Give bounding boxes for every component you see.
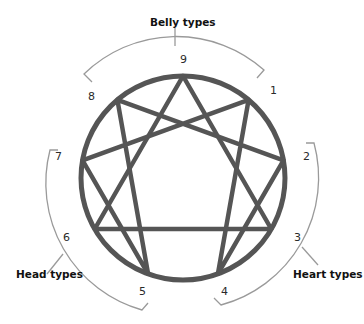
belly-types-label: Belly types	[150, 16, 216, 28]
enneagram-diagram: 9 1 2 3 4 5 6 7 8 Belly types Heart type…	[0, 0, 364, 324]
point-label-9: 9	[180, 53, 187, 66]
point-label-1: 1	[270, 84, 277, 97]
point-label-5: 5	[139, 285, 146, 298]
point-label-4: 4	[221, 285, 228, 298]
point-label-6: 6	[63, 231, 70, 244]
point-label-3: 3	[294, 231, 301, 244]
heart-types-label: Heart types	[293, 268, 363, 280]
enneagram-circle	[81, 76, 285, 280]
heart-bracket-tick	[302, 247, 318, 265]
hexad-figure	[83, 100, 284, 274]
point-label-7: 7	[55, 150, 62, 163]
point-label-8: 8	[88, 90, 95, 103]
point-label-2: 2	[303, 150, 310, 163]
head-types-label: Head types	[16, 268, 83, 280]
